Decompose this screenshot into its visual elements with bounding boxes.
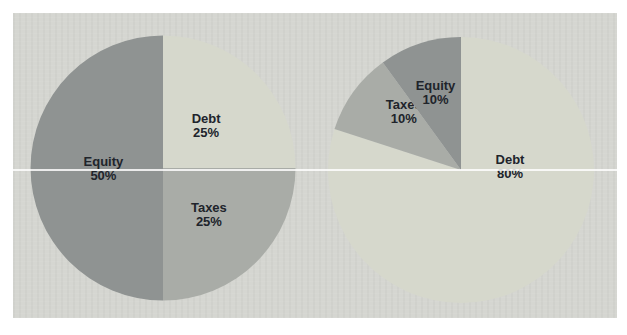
pie-chart-left: Debt25%Taxes25%Equity50%	[31, 36, 296, 301]
pie-slice-debt	[163, 36, 296, 169]
figure-page: Debt25%Taxes25%Equity50% Debt80%Taxes10%…	[0, 0, 627, 335]
pie-slice-taxes	[163, 168, 296, 301]
pie-label-debt: Debt80%	[496, 152, 526, 181]
pie-label-debt: Debt25%	[192, 111, 222, 140]
pie-charts-canvas: Debt25%Taxes25%Equity50% Debt80%Taxes10%…	[13, 13, 617, 318]
pie-chart-right: Debt80%Taxes10%Equity10%	[328, 37, 594, 303]
chart-panel: Debt25%Taxes25%Equity50% Debt80%Taxes10%…	[13, 13, 617, 318]
pie-label-taxes: Taxes25%	[191, 200, 227, 229]
